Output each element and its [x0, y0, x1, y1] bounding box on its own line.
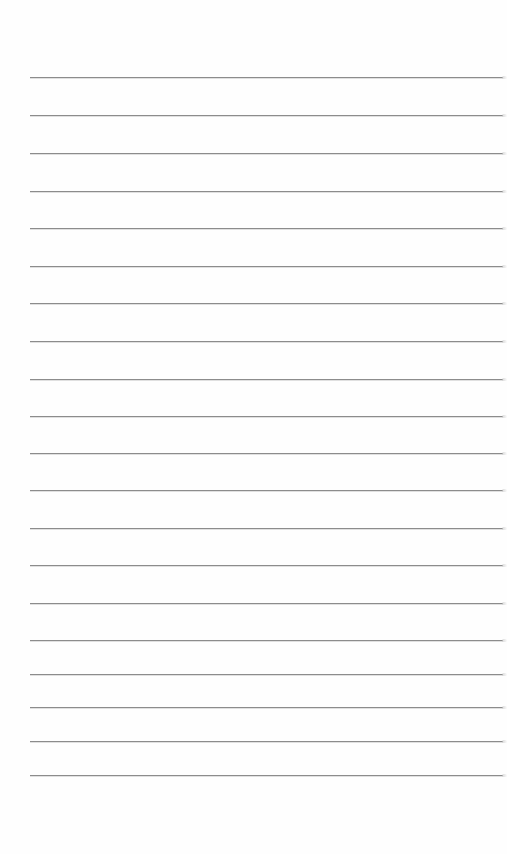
ruled-line — [30, 379, 503, 380]
ruled-line-edge-shadow — [502, 489, 507, 492]
ruled-line — [30, 77, 503, 78]
ruled-line — [30, 303, 503, 304]
ruled-line-edge-shadow — [502, 415, 507, 418]
ruled-line-edge-shadow — [502, 527, 507, 530]
ruled-line-edge-shadow — [502, 227, 507, 230]
ruled-line-edge-shadow — [502, 564, 507, 567]
ruled-line — [30, 775, 503, 776]
ruled-line — [30, 528, 503, 529]
ruled-line-edge-shadow — [502, 452, 507, 455]
ruled-line — [30, 341, 503, 342]
ruled-line — [30, 453, 503, 454]
ruled-line — [30, 741, 503, 742]
ruled-line — [30, 115, 503, 116]
ruled-line — [30, 416, 503, 417]
ruled-line — [30, 603, 503, 604]
ruled-line-edge-shadow — [502, 378, 507, 381]
ruled-line — [30, 707, 503, 708]
ruled-line-edge-shadow — [502, 639, 507, 642]
ruled-line — [30, 191, 503, 192]
ruled-line-edge-shadow — [502, 76, 507, 79]
ruled-line — [30, 266, 503, 267]
ruled-line — [30, 674, 503, 675]
ruled-line — [30, 640, 503, 641]
lined-paper-page — [0, 0, 507, 854]
ruled-line-edge-shadow — [502, 265, 507, 268]
ruled-line — [30, 153, 503, 154]
ruled-line-edge-shadow — [502, 114, 507, 117]
ruled-line-edge-shadow — [502, 602, 507, 605]
ruled-line-edge-shadow — [502, 740, 507, 743]
ruled-line — [30, 490, 503, 491]
ruled-line-edge-shadow — [502, 302, 507, 305]
ruled-line-edge-shadow — [502, 706, 507, 709]
ruled-line — [30, 565, 503, 566]
ruled-line-edge-shadow — [502, 673, 507, 676]
ruled-line-edge-shadow — [502, 152, 507, 155]
ruled-line-edge-shadow — [502, 340, 507, 343]
ruled-line-edge-shadow — [502, 774, 507, 777]
ruled-line — [30, 228, 503, 229]
ruled-line-edge-shadow — [502, 190, 507, 193]
